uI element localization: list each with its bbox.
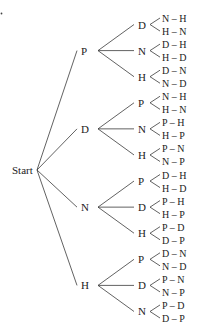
leaf-branch bbox=[150, 18, 160, 25]
leaf-branch bbox=[150, 96, 160, 103]
tree-branches bbox=[37, 18, 160, 318]
level2-node: N bbox=[138, 305, 146, 317]
leaf-node: N – H bbox=[162, 91, 186, 102]
leaf-node: H – D bbox=[162, 52, 186, 63]
leaf-branch bbox=[150, 175, 160, 182]
level1-branch bbox=[98, 181, 134, 207]
root-branch bbox=[37, 170, 77, 285]
level2-node: D bbox=[138, 19, 146, 31]
leaf-node: P – D bbox=[162, 300, 184, 311]
leaf-branch bbox=[150, 44, 160, 51]
leaf-branch bbox=[150, 259, 160, 266]
leaf-branch bbox=[150, 253, 160, 260]
leaf-node: D – P bbox=[162, 313, 185, 324]
leaf-node: H – P bbox=[162, 130, 185, 141]
leaf-branch bbox=[150, 311, 160, 318]
leaf-node: P – D bbox=[162, 222, 184, 233]
leaf-branch bbox=[150, 77, 160, 84]
leaf-node: N – P bbox=[162, 287, 185, 298]
level2-node: N bbox=[138, 45, 146, 57]
leaf-branch bbox=[150, 148, 160, 155]
leaf-branch bbox=[150, 279, 160, 286]
leaf-branch bbox=[150, 122, 160, 129]
leaf-node: H – P bbox=[162, 209, 185, 220]
root-node-start: Start bbox=[12, 164, 33, 176]
level2-node: H bbox=[138, 71, 146, 83]
leaf-node: N – P bbox=[162, 156, 185, 167]
leaf-node: H – D bbox=[162, 183, 186, 194]
level1-branch bbox=[98, 259, 134, 285]
tree-labels: DN – HH – NND – HH – DHD – NN – DPPN – H… bbox=[81, 13, 186, 324]
level1-node: D bbox=[81, 123, 89, 135]
root-branch bbox=[37, 51, 77, 170]
leaf-node: P – N bbox=[162, 143, 184, 154]
leaf-node: D – P bbox=[162, 235, 185, 246]
level1-branch bbox=[98, 103, 134, 129]
leaf-branch bbox=[150, 181, 160, 188]
level2-node: P bbox=[138, 175, 144, 187]
level1-node: H bbox=[81, 279, 89, 291]
leaf-branch bbox=[150, 285, 160, 292]
level2-node: H bbox=[138, 149, 146, 161]
leaf-node: D – H bbox=[162, 39, 186, 50]
leaf-node: P – H bbox=[162, 117, 184, 128]
level2-node: D bbox=[138, 279, 146, 291]
level2-node: P bbox=[138, 97, 144, 109]
level1-branch bbox=[98, 285, 134, 311]
leaf-branch bbox=[150, 51, 160, 58]
leaf-branch bbox=[150, 201, 160, 208]
leaf-branch bbox=[150, 103, 160, 110]
leaf-node: N – D bbox=[162, 78, 186, 89]
leaf-node: P – H bbox=[162, 196, 184, 207]
leaf-branch bbox=[150, 155, 160, 162]
root-branch bbox=[37, 170, 77, 207]
level1-node: P bbox=[81, 45, 87, 57]
leaf-branch bbox=[150, 129, 160, 136]
root-branch bbox=[37, 129, 77, 170]
level1-branch bbox=[98, 51, 134, 77]
leaf-branch bbox=[150, 233, 160, 240]
corner-dot bbox=[1, 13, 3, 15]
level2-node: H bbox=[138, 227, 146, 239]
level1-node: N bbox=[81, 201, 89, 213]
level1-branch bbox=[98, 25, 134, 51]
leaf-branch bbox=[150, 305, 160, 312]
level1-branch bbox=[98, 207, 134, 233]
leaf-node: D – N bbox=[162, 65, 186, 76]
leaf-node: H – N bbox=[162, 26, 186, 37]
tree-diagram: Start DN – HH – NND – HH – DHD – NN – DP… bbox=[0, 0, 198, 329]
leaf-node: N – H bbox=[162, 13, 186, 24]
leaf-node: H – N bbox=[162, 104, 186, 115]
leaf-branch bbox=[150, 25, 160, 32]
leaf-branch bbox=[150, 207, 160, 214]
level2-node: D bbox=[138, 201, 146, 213]
leaf-node: P – N bbox=[162, 274, 184, 285]
leaf-node: D – N bbox=[162, 248, 186, 259]
leaf-branch bbox=[150, 227, 160, 234]
leaf-node: N – D bbox=[162, 261, 186, 272]
leaf-node: D – H bbox=[162, 170, 186, 181]
leaf-branch bbox=[150, 70, 160, 77]
level2-node: P bbox=[138, 253, 144, 265]
level1-branch bbox=[98, 129, 134, 155]
level2-node: N bbox=[138, 123, 146, 135]
